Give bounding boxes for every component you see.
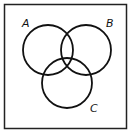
label-c: C: [90, 102, 98, 115]
label-a: A: [21, 17, 30, 30]
venn-diagram: A B C: [0, 0, 129, 131]
label-b: B: [106, 17, 114, 30]
